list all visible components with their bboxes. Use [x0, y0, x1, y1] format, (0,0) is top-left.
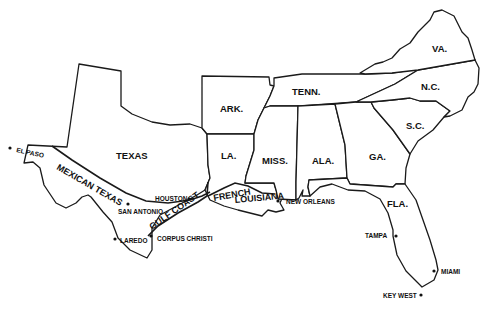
city-houston: HOUSTON	[155, 195, 191, 202]
label-alabama: ALA.	[312, 155, 334, 166]
city-key-west: KEY WEST	[383, 292, 423, 299]
southern-states-map: TEXAS ARK. LA. TENN. MISS. ALA. GA. FLA.…	[0, 0, 487, 311]
svg-text:CORPUS CHRISTI: CORPUS CHRISTI	[157, 235, 213, 242]
city-dot-icon	[432, 269, 435, 272]
city-dot-icon	[113, 237, 116, 240]
city-dot-icon	[419, 293, 422, 296]
svg-text:SAN ANTONIO: SAN ANTONIO	[118, 208, 163, 215]
city-dot-icon	[126, 202, 129, 205]
label-south-carolina: S.C.	[406, 120, 424, 131]
svg-text:TAMPA: TAMPA	[365, 232, 387, 239]
svg-text:LAREDO: LAREDO	[120, 237, 147, 244]
svg-text:NEW ORLEANS: NEW ORLEANS	[286, 198, 335, 205]
label-tennessee: TENN.	[292, 86, 321, 97]
svg-text:HOUSTON: HOUSTON	[155, 195, 188, 202]
label-georgia: GA.	[369, 151, 386, 162]
city-dot-icon	[187, 197, 190, 200]
city-dot-icon	[276, 199, 279, 202]
svg-text:MIAMI: MIAMI	[441, 268, 460, 275]
label-north-carolina: N.C.	[421, 81, 440, 92]
svg-text:KEY WEST: KEY WEST	[383, 292, 417, 299]
city-new-orleans: NEW ORLEANS	[276, 198, 335, 205]
city-dot-icon	[394, 234, 397, 237]
label-arkansas: ARK.	[220, 103, 243, 114]
label-texas: TEXAS	[116, 150, 148, 161]
city-corpus-christi: CORPUS CHRISTI	[149, 234, 212, 242]
label-virginia: VA.	[432, 43, 447, 54]
label-florida: FLA.	[387, 198, 408, 209]
city-dot-icon	[8, 146, 11, 149]
label-mississippi: MISS.	[262, 155, 288, 166]
city-dot-icon	[149, 234, 152, 237]
state-texas	[24, 64, 210, 258]
label-louisiana: LA.	[221, 150, 236, 161]
